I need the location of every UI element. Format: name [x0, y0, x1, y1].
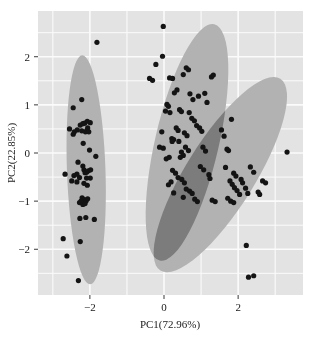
data-point [251, 170, 256, 175]
data-point [251, 273, 256, 278]
data-point [93, 154, 98, 159]
data-point [182, 180, 187, 185]
data-point [186, 148, 191, 153]
data-point [82, 201, 87, 206]
data-point [88, 120, 93, 125]
data-point [87, 148, 92, 153]
data-point [284, 149, 289, 154]
data-point [221, 134, 226, 139]
data-point [85, 183, 90, 188]
data-point [163, 109, 168, 114]
data-point [85, 125, 90, 130]
data-point [179, 109, 184, 114]
x-tick-label: 0 [161, 301, 167, 313]
data-point [64, 253, 69, 258]
data-point [173, 171, 178, 176]
data-point [85, 196, 90, 201]
data-point [199, 129, 204, 134]
data-point [196, 94, 201, 99]
data-point [92, 217, 97, 222]
data-point [202, 91, 207, 96]
data-point [229, 117, 234, 122]
data-point [166, 104, 171, 109]
data-point [74, 179, 79, 184]
data-point [160, 54, 165, 59]
data-point [226, 148, 231, 153]
data-point [61, 236, 66, 241]
y-axis-title: PC2(22.85%) [5, 123, 18, 184]
y-tick-label: −1 [18, 195, 30, 207]
data-point [72, 129, 77, 134]
data-point [167, 155, 172, 160]
data-point [201, 167, 206, 172]
data-point [223, 165, 228, 170]
data-point [79, 97, 84, 102]
y-tick-label: −2 [18, 243, 30, 255]
data-point [231, 200, 236, 205]
plot-canvas: −202−2−1012 PC1(72.96%) PC2(22.85%) [0, 0, 318, 340]
data-point [166, 182, 171, 187]
pca-score-plot-figure: −202−2−1012 PC1(72.96%) PC2(22.85%) [0, 0, 318, 340]
data-point [184, 133, 189, 138]
data-point [263, 180, 268, 185]
data-point [181, 72, 186, 77]
data-point [159, 129, 164, 134]
data-point [153, 62, 158, 67]
data-point [62, 172, 67, 177]
data-point [88, 167, 93, 172]
data-point [244, 243, 249, 248]
data-point [170, 76, 175, 81]
data-point [178, 155, 183, 160]
data-point [211, 72, 216, 77]
data-point [257, 192, 262, 197]
data-point [190, 97, 195, 102]
data-point [246, 275, 251, 280]
data-point [76, 278, 81, 283]
data-point [189, 116, 194, 121]
y-tick-label: 2 [25, 51, 31, 63]
data-point [69, 178, 74, 183]
x-tick-label: 2 [235, 301, 241, 313]
data-point [213, 199, 218, 204]
data-point [207, 176, 212, 181]
data-point [186, 67, 191, 72]
data-point [75, 160, 80, 165]
data-point [245, 191, 250, 196]
data-point [233, 174, 238, 179]
data-point [175, 128, 180, 133]
data-point [170, 139, 175, 144]
data-point [203, 148, 208, 153]
data-point [77, 216, 82, 221]
data-point [67, 126, 72, 131]
data-point [80, 121, 85, 126]
data-point [71, 105, 76, 110]
data-point [187, 110, 192, 115]
data-point [243, 186, 248, 191]
data-point [248, 164, 253, 169]
data-point [150, 78, 155, 83]
data-point [171, 190, 176, 195]
data-point [94, 40, 99, 45]
data-point [187, 91, 192, 96]
data-point [190, 191, 195, 196]
data-point [172, 90, 177, 95]
x-tick-label: −2 [84, 301, 96, 313]
data-point [167, 110, 172, 115]
data-point [195, 199, 200, 204]
data-point [81, 141, 86, 146]
data-point [74, 172, 79, 177]
data-point [237, 192, 242, 197]
x-axis-title: PC1(72.96%) [140, 318, 201, 331]
data-point [181, 195, 186, 200]
data-point [161, 146, 166, 151]
y-tick-label: 1 [25, 99, 31, 111]
data-point [83, 215, 88, 220]
data-point [84, 175, 89, 180]
data-point [176, 139, 181, 144]
data-point [161, 24, 166, 29]
y-tick-label: 0 [25, 147, 31, 159]
data-point [78, 239, 83, 244]
data-point [239, 177, 244, 182]
data-point [219, 127, 224, 132]
data-point [204, 100, 209, 105]
